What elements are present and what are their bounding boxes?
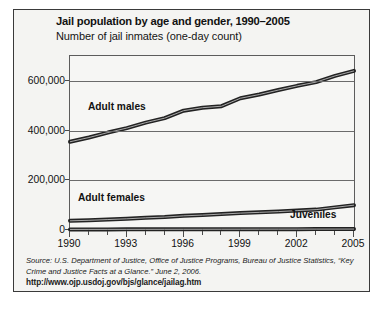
x-tick-minor: [88, 231, 89, 235]
x-tick-minor: [220, 231, 221, 235]
x-tick-minor: [145, 231, 146, 235]
x-tick-major: [296, 231, 297, 237]
source-citation: Source: U.S. Department of Justice, Offi…: [26, 256, 354, 276]
x-tick-minor: [334, 231, 335, 235]
x-tick-label: 1999: [228, 238, 251, 249]
gridline: [70, 180, 354, 181]
plot-area: [69, 55, 355, 231]
x-tick-label: 2005: [342, 238, 365, 249]
x-tick-label: 2002: [285, 238, 308, 249]
x-axis-ticks: [69, 231, 355, 238]
x-tick-label: 1993: [114, 238, 137, 249]
x-tick-minor: [202, 231, 203, 235]
x-tick-minor: [315, 231, 316, 235]
gridline: [70, 131, 354, 132]
x-tick-major: [126, 231, 127, 237]
x-tick-major: [353, 231, 354, 237]
chart-title: Jail population by age and gender, 1990–…: [56, 15, 290, 27]
x-tick-label: 1990: [58, 238, 81, 249]
series-label-juveniles: Juveniles: [290, 209, 336, 220]
source-note: Source: U.S. Department of Justice, Offi…: [26, 256, 356, 289]
x-tick-major: [183, 231, 184, 237]
chart-subtitle: Number of jail inmates (one-day count): [56, 30, 242, 42]
x-tick-minor: [107, 231, 108, 235]
y-tick-label: 400,000: [28, 124, 65, 135]
chart-figure: Jail population by age and gender, 1990–…: [0, 0, 387, 309]
series-label-adult-females: Adult females: [78, 192, 145, 203]
series-label-adult-males: Adult males: [88, 101, 146, 112]
x-tick-major: [239, 231, 240, 237]
y-tick-label: 600,000: [28, 74, 65, 85]
x-tick-minor: [258, 231, 259, 235]
gridline: [70, 81, 354, 82]
x-tick-label: 1996: [171, 238, 194, 249]
y-axis: 0200,000400,000600,000: [13, 55, 65, 231]
x-tick-minor: [277, 231, 278, 235]
series-lines: [70, 56, 354, 230]
x-tick-minor: [164, 231, 165, 235]
x-tick-major: [69, 231, 70, 237]
source-url[interactable]: http://www.ojp.usdoj.gov/bjs/glance/jail…: [26, 278, 356, 289]
y-tick-label: 200,000: [28, 174, 65, 185]
